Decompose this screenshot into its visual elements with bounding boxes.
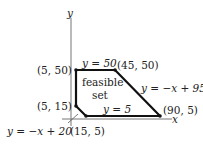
vertex-dot	[74, 104, 78, 108]
region-label-line1: feasible	[82, 76, 123, 88]
vertex-dot	[158, 114, 162, 118]
constraint-label-y50: y = 50	[81, 57, 117, 69]
vertex-label-90-5: (90, 5)	[163, 104, 198, 116]
feasible-set-diagram: y x (5, 50) (45, 50) (90, 5) (15, 5) (5,…	[0, 0, 203, 150]
vertex-dot	[74, 68, 78, 72]
constraint-label-y5: y = 5	[102, 103, 131, 115]
vertex-dot	[84, 114, 88, 118]
vertex-label-5-50: (5, 50)	[37, 64, 72, 76]
vertex-label-5-15: (5, 15)	[37, 100, 72, 112]
region-label-line2: set	[92, 89, 109, 101]
y-axis-label: y	[66, 7, 74, 19]
constraint-label-y-neg-x-20: y = −x + 20	[6, 125, 72, 137]
vertex-label-15-5: (15, 5)	[70, 125, 105, 137]
constraint-label-y-neg-x-95: y = −x + 95	[140, 82, 203, 94]
vertex-label-45-50: (45, 50)	[117, 59, 159, 71]
